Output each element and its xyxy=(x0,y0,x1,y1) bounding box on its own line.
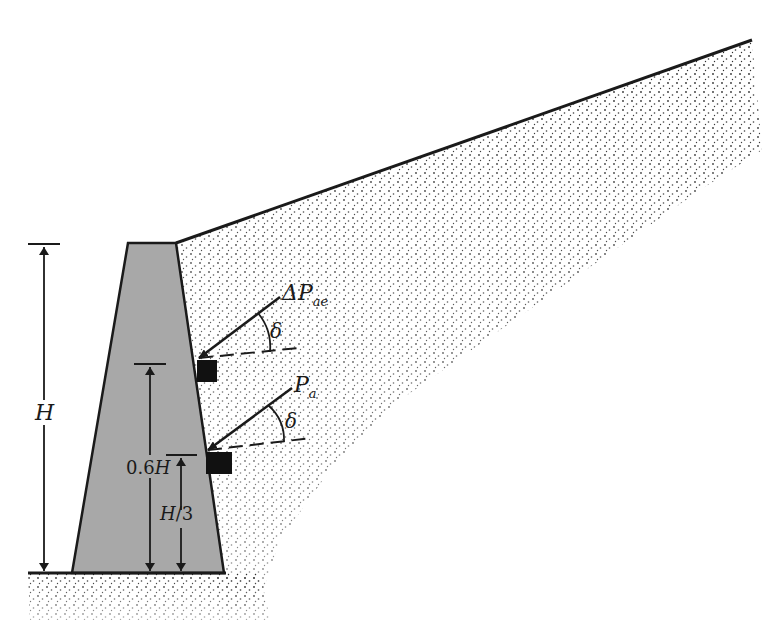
label-H: H xyxy=(34,400,55,425)
label-0-6H: 0.6H xyxy=(126,457,171,478)
label-H-over-3: H/3 xyxy=(159,503,193,524)
label-delta-angle-2: δ xyxy=(285,409,297,433)
label-delta-angle-1: δ xyxy=(270,319,282,343)
pa-application-block xyxy=(206,452,232,474)
pae-application-block xyxy=(197,360,217,382)
retaining-wall-diagram: H ΔPae δ Pa δ 0.6H H/3 xyxy=(0,0,778,639)
backfill-soil xyxy=(176,40,762,615)
foundation-soil xyxy=(28,573,270,620)
